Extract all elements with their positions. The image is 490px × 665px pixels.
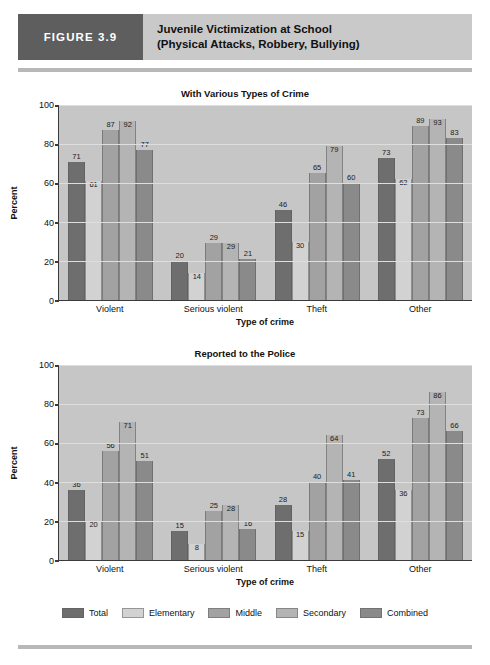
bar-combined-serious-violent: 16 — [239, 365, 256, 560]
chart-2-tickmark-0 — [55, 560, 59, 562]
chart-2-bar-groups: 362056715115825281628154064415236738666 — [59, 365, 472, 560]
bar-value-label: 46 — [275, 201, 292, 209]
divider-top — [18, 68, 472, 72]
bar-total-serious-violent: 20 — [171, 105, 188, 300]
bar-total-violent: 71 — [68, 105, 85, 300]
bar-rect — [446, 138, 463, 300]
bar-rect — [395, 179, 412, 300]
figure-header-banner: FIGURE 3.9 Juvenile Victimization at Sch… — [18, 14, 472, 60]
chart-2-gridline-100 — [59, 365, 472, 366]
x-tick-theft: Theft — [265, 304, 369, 314]
bar-value-label: 73 — [378, 149, 395, 157]
bar-rect — [378, 158, 395, 300]
bar-middle-serious-violent: 25 — [205, 365, 222, 560]
bar-value-label: 20 — [171, 252, 188, 260]
bar-total-violent: 36 — [68, 365, 85, 560]
figure-number-label: FIGURE 3.9 — [44, 31, 118, 43]
bar-rect — [171, 261, 188, 300]
x-tick-other: Other — [369, 564, 473, 574]
x-tick-serious-violent: Serious violent — [162, 304, 266, 314]
chart-1-gridline-20 — [59, 261, 472, 262]
bar-group-serious-violent: 158252816 — [162, 365, 265, 560]
chart-2-y-tick-60: 60 — [44, 438, 54, 448]
figure-title-line-2: (Physical Attacks, Robbery, Bullying) — [157, 37, 472, 52]
legend-swatch-elementary — [122, 608, 144, 618]
bar-rect — [429, 119, 446, 300]
bar-group-theft: 2815406441 — [266, 365, 369, 560]
chart-1-title: With Various Types of Crime — [18, 88, 472, 99]
legend-label-elementary: Elementary — [149, 608, 195, 618]
chart-1-tickmark-60 — [55, 183, 59, 185]
bar-total-theft: 28 — [275, 365, 292, 560]
chart-1-tickmark-100 — [55, 105, 59, 107]
bar-value-label: 29 — [205, 234, 222, 242]
chart-2-y-axis-title: Percent — [18, 365, 32, 561]
bar-secondary-other: 93 — [429, 105, 446, 300]
bar-combined-other: 83 — [446, 105, 463, 300]
chart-1-y-tick-0: 0 — [49, 296, 54, 306]
chart-1-tickmark-80 — [55, 144, 59, 146]
chart-1-y-axis-title: Percent — [18, 105, 32, 301]
bar-elementary-violent: 61 — [85, 105, 102, 300]
legend-swatch-middle — [208, 608, 230, 618]
chart-2-x-axis-title: Type of crime — [58, 577, 472, 587]
chart-2-gridline-60 — [59, 443, 472, 444]
bar-group-violent: 3620567151 — [59, 365, 162, 560]
x-tick-other: Other — [369, 304, 473, 314]
chart-2-title: Reported to the Police — [18, 348, 472, 359]
figure-number-tag: FIGURE 3.9 — [18, 14, 143, 60]
bar-value-label: 40 — [309, 473, 326, 481]
bar-rect — [205, 243, 222, 300]
x-tick-theft: Theft — [265, 564, 369, 574]
chart-legend: TotalElementaryMiddleSecondaryCombined — [18, 608, 472, 618]
bar-value-label: 15 — [292, 531, 309, 539]
bar-value-label: 15 — [171, 522, 188, 530]
bar-value-label: 89 — [412, 117, 429, 125]
x-tick-serious-violent: Serious violent — [162, 564, 266, 574]
chart-1-x-axis-title: Type of crime — [58, 317, 472, 327]
legend-label-secondary: Secondary — [303, 608, 346, 618]
chart-2-y-tick-labels: 020406080100 — [32, 365, 58, 561]
bar-rect — [68, 490, 85, 560]
bar-rect — [275, 505, 292, 560]
legend-swatch-secondary — [276, 608, 298, 618]
bar-combined-other: 66 — [446, 365, 463, 560]
chart-1-y-tick-60: 60 — [44, 178, 54, 188]
bar-rect — [222, 243, 239, 300]
bar-combined-theft: 60 — [343, 105, 360, 300]
bar-total-theft: 46 — [275, 105, 292, 300]
chart-1-tickmark-20 — [55, 261, 59, 263]
bar-rect — [378, 459, 395, 560]
bar-value-label: 71 — [119, 422, 136, 430]
chart-1-gridline-80 — [59, 144, 472, 145]
bar-group-violent: 7161879277 — [59, 105, 162, 300]
bar-middle-violent: 56 — [102, 365, 119, 560]
chart-2-y-tick-80: 80 — [44, 399, 54, 409]
figure-title-line-1: Juvenile Victimization at School — [157, 22, 472, 37]
bar-value-label: 60 — [343, 174, 360, 182]
bar-middle-violent: 87 — [102, 105, 119, 300]
bar-value-label: 52 — [378, 450, 395, 458]
legend-item-middle: Middle — [208, 608, 262, 618]
bar-total-other: 52 — [378, 365, 395, 560]
bar-rect — [119, 121, 136, 300]
bar-value-label: 29 — [222, 243, 239, 251]
bar-secondary-theft: 64 — [326, 365, 343, 560]
bar-value-label: 14 — [188, 273, 205, 281]
chart-1-y-tick-100: 100 — [39, 100, 54, 110]
bar-rect — [222, 505, 239, 560]
legend-label-total: Total — [89, 608, 108, 618]
chart-1-tickmark-0 — [55, 300, 59, 302]
bar-value-label: 8 — [188, 544, 205, 552]
figure-title: Juvenile Victimization at School (Physic… — [143, 14, 472, 60]
bar-combined-serious-violent: 21 — [239, 105, 256, 300]
bar-rect — [275, 210, 292, 300]
chart-reported-to-the-police: Reported to the Police Percent 020406080… — [18, 348, 472, 598]
chart-2-y-tick-100: 100 — [39, 360, 54, 370]
bar-rect — [429, 392, 446, 560]
bar-value-label: 86 — [429, 392, 446, 400]
bar-rect — [171, 531, 188, 560]
bar-rect — [343, 183, 360, 300]
x-tick-violent: Violent — [58, 564, 162, 574]
bar-value-label: 28 — [275, 496, 292, 504]
